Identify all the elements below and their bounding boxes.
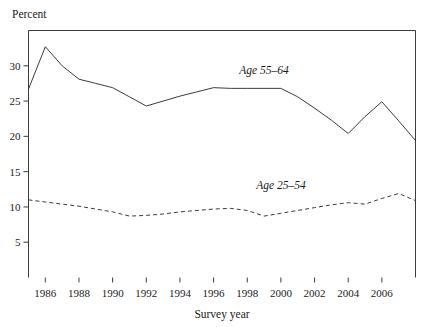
x-axis-title: Survey year <box>194 308 249 321</box>
series-line-age-25-54 <box>29 194 416 217</box>
series-line-age-55-64 <box>29 47 416 141</box>
x-tick-label-1990: 1990 <box>102 287 125 299</box>
x-axis-ticks <box>45 278 382 283</box>
data-series-group <box>29 47 416 216</box>
y-tick-label-30: 30 <box>10 60 22 72</box>
series-label-age-25-54: Age 25–54 <box>255 179 306 192</box>
line-chart: Percent 51015202530 19861988199019921994… <box>0 0 431 327</box>
x-tick-label-1988: 1988 <box>68 287 91 299</box>
plot-frame <box>29 31 416 278</box>
y-axis-title: Percent <box>12 8 47 20</box>
x-tick-label-2000: 2000 <box>270 287 293 299</box>
y-axis-ticks <box>24 66 29 242</box>
x-tick-label-2006: 2006 <box>371 287 394 299</box>
x-tick-label-1996: 1996 <box>203 287 226 299</box>
y-tick-label-15: 15 <box>10 166 22 178</box>
y-tick-label-5: 5 <box>15 236 21 248</box>
x-tick-label-1994: 1994 <box>169 287 192 299</box>
x-tick-label-1998: 1998 <box>236 287 259 299</box>
chart-figure: Percent 51015202530 19861988199019921994… <box>0 0 431 327</box>
x-axis-tick-labels: 1986198819901992199419961998200020022004… <box>34 287 393 299</box>
y-axis-tick-labels: 51015202530 <box>10 60 22 248</box>
x-tick-label-1986: 1986 <box>34 287 57 299</box>
series-label-age-55-64: Age 55–64 <box>238 64 289 77</box>
series-annotations: Age 55–64Age 25–54 <box>238 64 306 192</box>
x-tick-label-1992: 1992 <box>135 287 157 299</box>
x-tick-label-2004: 2004 <box>337 287 360 299</box>
x-tick-label-2002: 2002 <box>304 287 326 299</box>
y-tick-label-25: 25 <box>10 95 22 107</box>
y-tick-label-20: 20 <box>10 130 22 142</box>
y-tick-label-10: 10 <box>10 201 22 213</box>
